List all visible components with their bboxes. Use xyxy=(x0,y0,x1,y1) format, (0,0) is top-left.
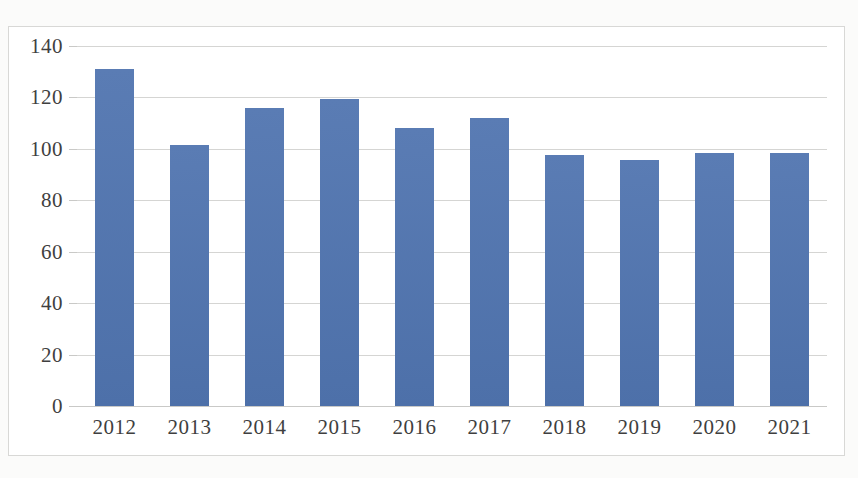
bar-2013 xyxy=(170,145,209,406)
x-axis-label: 2020 xyxy=(677,415,752,440)
cropped-header-text xyxy=(0,0,858,13)
bar-2019 xyxy=(620,160,659,406)
bar-2017 xyxy=(470,118,509,406)
bar-2014 xyxy=(245,108,284,406)
x-axis-label: 2019 xyxy=(602,415,677,440)
bar-2012 xyxy=(95,69,134,406)
screenshot-page: 020406080100120140 201220132014201520162… xyxy=(0,0,858,478)
bar-2016 xyxy=(395,128,434,406)
plot-area: 020406080100120140 201220132014201520162… xyxy=(9,27,844,455)
x-axis-label: 2013 xyxy=(152,415,227,440)
x-axis-label: 2015 xyxy=(302,415,377,440)
bar-2015 xyxy=(320,99,359,406)
x-axis-label: 2021 xyxy=(752,415,827,440)
x-axis-label: 2014 xyxy=(227,415,302,440)
bars-group xyxy=(9,27,844,455)
bar-2018 xyxy=(545,155,584,406)
x-axis-label: 2018 xyxy=(527,415,602,440)
x-axis-label: 2017 xyxy=(452,415,527,440)
bar-chart: 020406080100120140 201220132014201520162… xyxy=(8,26,845,456)
bar-2021 xyxy=(770,153,809,406)
x-axis-label: 2012 xyxy=(77,415,152,440)
bar-2020 xyxy=(695,153,734,406)
x-axis-label: 2016 xyxy=(377,415,452,440)
